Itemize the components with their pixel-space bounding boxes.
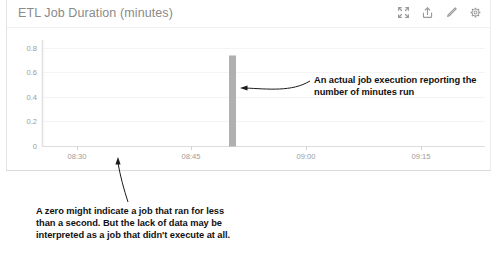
panel-header: ETL Job Duration (minutes) bbox=[7, 0, 490, 28]
page-title: ETL Job Duration (minutes) bbox=[18, 6, 173, 20]
x-tick-label: 09:15 bbox=[411, 152, 430, 161]
x-tick-label: 09:00 bbox=[296, 152, 315, 161]
y-tick-label: 0.6 bbox=[26, 68, 37, 77]
y-tick-label: 0.4 bbox=[26, 93, 37, 102]
x-axis-labels: 08:30 08:45 09:00 09:15 bbox=[67, 152, 430, 161]
y-tick-label: 0 bbox=[33, 142, 37, 151]
panel-action-bar bbox=[397, 6, 482, 19]
y-tick-label: 0.8 bbox=[26, 44, 37, 53]
x-tick-label: 08:30 bbox=[67, 152, 86, 161]
chart-svg: 0.8 0.6 0.4 0.2 0 08:30 08:45 09:00 09:1… bbox=[7, 28, 492, 170]
gear-icon[interactable] bbox=[469, 6, 482, 19]
annotation-bottom: A zero might indicate a job that ran for… bbox=[36, 205, 236, 242]
y-tick-label: 0.2 bbox=[26, 117, 37, 126]
share-icon[interactable] bbox=[421, 6, 434, 19]
y-axis-labels: 0.8 0.6 0.4 0.2 0 bbox=[26, 44, 37, 151]
expand-icon[interactable] bbox=[397, 6, 410, 19]
annotation-right: An actual job execution reporting the nu… bbox=[314, 74, 484, 98]
bar-chart: 0.8 0.6 0.4 0.2 0 08:30 08:45 09:00 09:1… bbox=[7, 28, 490, 170]
x-tick-label: 08:45 bbox=[181, 152, 200, 161]
data-bar[interactable] bbox=[229, 56, 236, 147]
edit-icon[interactable] bbox=[445, 6, 458, 19]
